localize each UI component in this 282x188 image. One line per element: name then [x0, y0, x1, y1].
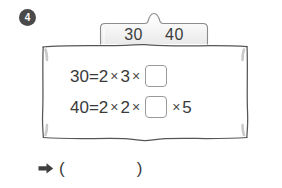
equation-40-factor-2: 2: [121, 99, 130, 116]
equation-30-factor-1: 2: [99, 68, 108, 85]
multiply-icon: ×: [110, 100, 118, 114]
equation-30-equals: =: [89, 68, 99, 85]
equation-30-answer-box[interactable]: [145, 65, 167, 87]
multiply-icon: ×: [132, 69, 140, 83]
problem-number-badge: 4: [19, 9, 36, 26]
answer-input-blank[interactable]: [65, 160, 137, 176]
equation-30-left: 30: [70, 68, 89, 85]
equation-30-factor-2: 3: [121, 68, 130, 85]
equation-40-left: 40: [70, 99, 89, 116]
equations-list: 30 = 2 × 3 × 40 = 2 × 2 × × 5: [39, 40, 251, 143]
multiply-icon: ×: [110, 69, 118, 83]
multiply-icon: ×: [132, 100, 140, 114]
problem-number-text: 4: [25, 13, 31, 23]
right-arrow-icon: [38, 162, 54, 175]
answer-row: ( ): [38, 157, 238, 179]
multiply-icon: ×: [172, 100, 180, 114]
equation-40-equals: =: [89, 99, 99, 116]
factorization-panel: 30 = 2 × 3 × 40 = 2 × 2 × × 5: [39, 40, 251, 143]
equation-40-factor-1: 2: [99, 99, 108, 116]
answer-paren-close: ): [137, 160, 143, 177]
equation-40-factor-3: 5: [182, 99, 191, 116]
worksheet-problem: 4 30 40: [0, 0, 282, 188]
equation-row-40: 40 = 2 × 2 × × 5: [70, 96, 251, 118]
equation-row-30: 30 = 2 × 3 ×: [70, 65, 251, 87]
equation-40-answer-box[interactable]: [145, 96, 167, 118]
